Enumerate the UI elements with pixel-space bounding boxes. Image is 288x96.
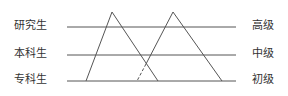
diagram-lines [0,0,288,96]
education-triangle [86,12,158,81]
title-triangle [146,12,222,81]
title-triangle-dashed-edge [137,64,146,81]
